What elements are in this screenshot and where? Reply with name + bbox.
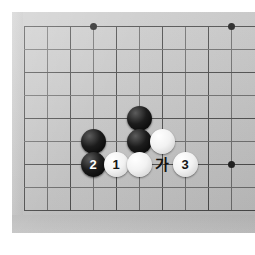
grid-line-horizontal-2 (24, 72, 255, 73)
grid-line-horizontal-3 (24, 95, 255, 96)
stone-white-move-1[interactable]: 1 (104, 152, 129, 177)
stone-label: 2 (89, 158, 96, 171)
stone-label: 3 (181, 158, 188, 171)
grid-line-horizontal-8 (24, 210, 255, 211)
stone-white-plain[interactable] (127, 152, 152, 177)
stone-black-upper[interactable] (127, 106, 152, 131)
board-point-label-point-ga[interactable]: 가 (150, 152, 175, 177)
star-right-icon (228, 161, 235, 168)
stone-label: 1 (112, 158, 119, 171)
star-top-right-icon (228, 23, 235, 30)
go-board-grid (0, 0, 255, 255)
stone-black-move-2[interactable]: 2 (81, 152, 106, 177)
grid-line-horizontal-7 (24, 187, 255, 188)
stone-black-middle[interactable] (127, 129, 152, 154)
star-top-icon (90, 23, 97, 30)
grid-line-horizontal-0 (24, 26, 255, 27)
go-diagram-scene: 213가 (0, 0, 255, 255)
stone-white-right[interactable] (150, 129, 175, 154)
stone-white-move-3[interactable]: 3 (173, 152, 198, 177)
stone-black-left[interactable] (81, 129, 106, 154)
grid-line-horizontal-1 (24, 49, 255, 50)
